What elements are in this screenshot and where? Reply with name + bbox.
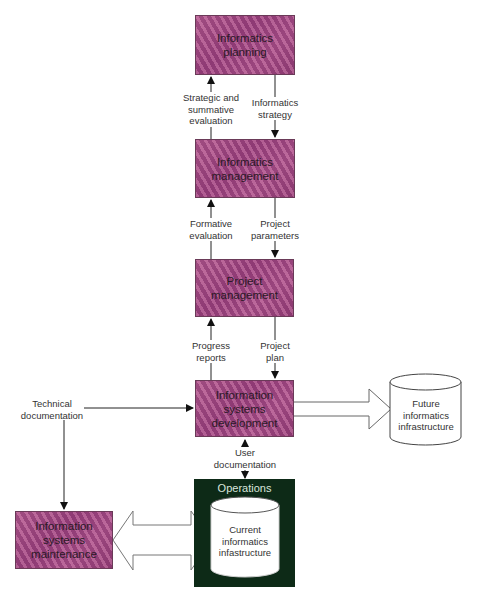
project-plan-label: Projectplan [255, 340, 295, 363]
box-label: Informatics [217, 31, 273, 45]
box-label: planning [217, 45, 273, 59]
box-label: Informatics [211, 155, 278, 169]
user-documentation-label: Userdocumentation [212, 447, 278, 470]
diagram-canvas: Informaticsplanning Informaticsmanagemen… [0, 0, 482, 612]
informatics-planning-box[interactable]: Informaticsplanning [195, 15, 295, 75]
information-systems-maintenance-box[interactable]: Informationsystemsmaintenance [15, 511, 113, 569]
box-label: management [211, 288, 278, 302]
future-infrastructure-label: Futureinformaticsinfrastructure [393, 398, 459, 433]
box-label: development [212, 416, 278, 430]
informatics-strategy-label: Informaticsstrategy [245, 97, 305, 120]
formative-evaluation-label: Formativeevaluation [181, 218, 241, 241]
project-management-box[interactable]: Projectmanagement [195, 259, 294, 317]
box-label: Project [211, 274, 278, 288]
box-label: Information [31, 519, 97, 533]
operations-panel[interactable]: Operations Currentinformaticsinfastructu… [194, 479, 295, 587]
box-label: systems [212, 402, 278, 416]
box-label: systems [31, 533, 97, 547]
progress-reports-label: Progressreports [184, 340, 238, 363]
strategic-summative-evaluation-label: Strategic andsummativeevaluation [172, 92, 250, 127]
box-label: Information [212, 388, 278, 402]
technical-documentation-label: Technicaldocumentation [20, 398, 84, 421]
current-infrastructure-label: Currentinformaticsinfastructure [211, 524, 279, 559]
box-label: management [211, 169, 278, 183]
project-parameters-label: Projectparameters [245, 218, 305, 241]
information-systems-development-box[interactable]: Informationsystemsdevelopment [195, 380, 294, 437]
informatics-management-box[interactable]: Informaticsmanagement [195, 139, 295, 198]
box-label: maintenance [31, 547, 97, 561]
